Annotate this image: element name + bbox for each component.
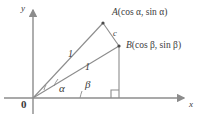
point-a-label: A(cos α, sin α) [112,8,167,18]
segment-ob-length-label: 1 [85,62,90,72]
point-b-dot [117,44,120,47]
segment-oa-length-label: 1 [68,49,73,59]
segment-ob [33,46,119,98]
point-b-coordinates: (cos β, sin β) [132,40,181,50]
figure-canvas [0,0,203,120]
angle-arc-alpha [54,79,58,86]
figure-root: y x 0 A(cos α, sin α) B(cos β, sin β) 1 … [0,0,203,120]
y-axis-label: y [21,4,25,13]
x-axis-label: x [189,100,193,109]
right-angle-marker [111,90,119,98]
origin-label: 0 [21,99,27,110]
angle-beta-label: β [85,79,90,90]
point-a-coordinates: (cos α, sin α) [118,7,168,17]
angle-arc-beta [80,91,82,98]
angle-alpha-label: α [59,83,65,94]
point-b-label: B(cos β, sin β) [126,41,181,51]
segment-ab-length-label: c [113,29,117,38]
point-a-dot [101,21,104,24]
segment-oa [33,23,103,98]
